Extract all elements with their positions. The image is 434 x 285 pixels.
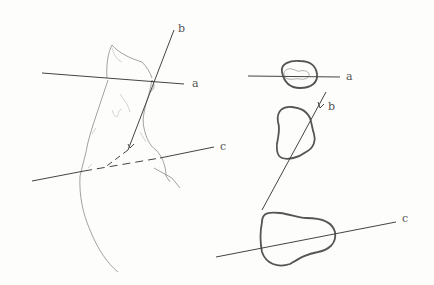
cross-section-c: c xyxy=(216,212,408,266)
section-line-a-right xyxy=(248,76,340,77)
label-a-right: a xyxy=(346,70,353,83)
label-c-right: c xyxy=(402,212,408,225)
section-line-c-left-solid1 xyxy=(32,171,84,181)
section-line-b-right xyxy=(262,92,326,210)
limb-sketch xyxy=(80,45,180,272)
diagram-canvas: a b c a b c xyxy=(0,0,434,285)
label-b-right: b xyxy=(328,100,335,113)
cross-section-b: b xyxy=(262,92,335,210)
section-line-a-left xyxy=(42,73,184,84)
section-line-c-left-solid2 xyxy=(160,147,214,158)
label-c-left: c xyxy=(220,140,226,153)
section-line-c-right xyxy=(216,222,396,257)
diagram-svg: a b c a b c xyxy=(0,0,434,285)
section-line-b-left xyxy=(128,30,174,150)
section-line-c-left-dashed xyxy=(84,158,160,171)
cross-section-a: a xyxy=(248,61,353,88)
label-a-left: a xyxy=(192,77,199,90)
arrow-b-right-icon xyxy=(318,102,324,108)
label-b-left: b xyxy=(178,22,185,35)
